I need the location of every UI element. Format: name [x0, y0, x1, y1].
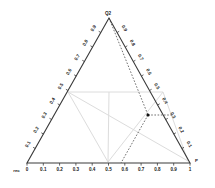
bottom-axis-tick-label: 0.2 [56, 167, 63, 172]
bottom-axis-tick-label: 0.7 [138, 167, 145, 172]
ternary-diagram-canvas: 00.10.20.30.40.50.60.70.80.91 0.10.20.30… [0, 0, 215, 188]
bottom-axis-tick-label: 0.6 [122, 167, 129, 172]
bottom-axis-tick-label: 0.4 [89, 167, 96, 172]
bottom-axis-tick-label: 0.9 [171, 167, 178, 172]
bottom-axis-tick-label: 0.1 [40, 167, 47, 172]
vertex-label-top: Q2 [105, 11, 112, 16]
chart-background [0, 0, 215, 188]
bottom-axis-tick-label: 0.5 [105, 167, 112, 172]
bottom-axis-tick-label: 1 [189, 167, 192, 172]
bottom-axis-tick-label: 0.8 [154, 167, 161, 172]
data-points-group [146, 113, 149, 116]
ternary-diagram-container: 00.10.20.30.40.50.60.70.80.91 0.10.20.30… [0, 0, 215, 188]
marked-point[interactable] [146, 113, 149, 116]
bottom-axis-tick-label: 0 [26, 167, 29, 172]
vertex-label-left: rec [13, 168, 20, 173]
vertex-label-right: P [195, 158, 198, 163]
bottom-axis-tick-label: 0.3 [73, 167, 80, 172]
